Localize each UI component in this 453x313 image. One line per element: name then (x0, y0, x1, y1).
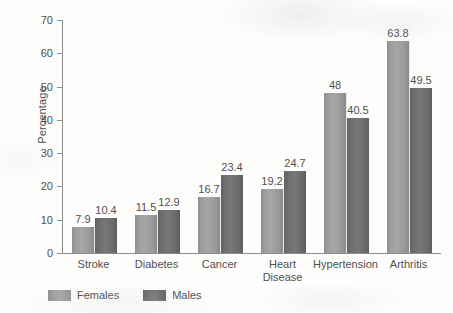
y-axis-tick-mark (57, 186, 62, 187)
y-axis-tick-label: 70 (41, 14, 53, 26)
bar-group: 19.224.7 (261, 20, 306, 253)
bar-group: 16.723.4 (198, 20, 243, 253)
bar-females[interactable]: 63.8 (387, 41, 410, 253)
bar-group: 4840.5 (324, 20, 369, 253)
bar-value-label: 12.9 (158, 196, 179, 208)
legend-item[interactable]: Males (143, 289, 201, 301)
bar-males[interactable]: 10.4 (95, 218, 117, 253)
legend-label: Males (172, 289, 201, 301)
y-axis-tick-label: 30 (41, 147, 53, 159)
bar-males[interactable]: 24.7 (284, 171, 306, 253)
bar-value-label: 48 (329, 79, 341, 91)
legend-item[interactable]: Females (48, 289, 119, 301)
legend-swatch-males (143, 290, 166, 301)
bar-males[interactable]: 12.9 (158, 210, 180, 253)
legend-label: Females (77, 289, 119, 301)
y-axis-tick-mark (57, 20, 62, 21)
bar-males[interactable]: 49.5 (410, 88, 432, 253)
bar-females[interactable]: 48 (324, 93, 347, 253)
bar-females[interactable]: 16.7 (198, 197, 221, 253)
y-axis-tick-mark (57, 87, 62, 88)
plot-area: 0102030405060707.910.411.512.916.723.419… (62, 20, 440, 253)
y-axis-tick-label: 50 (41, 81, 53, 93)
bar-value-label: 40.5 (347, 104, 368, 116)
bar-value-label: 7.9 (75, 213, 90, 225)
bar-females[interactable]: 19.2 (261, 189, 284, 253)
y-axis-tick-mark (57, 153, 62, 154)
y-axis-tick-label: 20 (41, 180, 53, 192)
bar-males[interactable]: 40.5 (347, 118, 369, 253)
x-axis-category-label: Arthritis (365, 258, 452, 271)
bar-group: 63.849.5 (387, 20, 432, 253)
bar-value-label: 49.5 (410, 74, 431, 86)
bar-value-label: 23.4 (221, 161, 242, 173)
bar-value-label: 16.7 (198, 183, 219, 195)
bar-value-label: 11.5 (136, 201, 157, 213)
y-axis-tick-label: 40 (41, 114, 53, 126)
y-axis-tick-mark (57, 53, 62, 54)
bar-value-label: 10.4 (95, 204, 116, 216)
legend-swatch-females (48, 290, 71, 301)
y-axis-tick-label: 60 (41, 47, 53, 59)
bar-value-label: 63.8 (387, 27, 408, 39)
chart-page: Percentage 0102030405060707.910.411.512.… (0, 0, 453, 313)
y-axis-tick-label: 10 (41, 214, 53, 226)
x-axis-line (62, 253, 441, 254)
y-axis-tick-mark (57, 120, 62, 121)
bar-value-label: 24.7 (284, 157, 305, 169)
chart-legend: FemalesMales (48, 289, 218, 301)
bar-females[interactable]: 11.5 (135, 215, 158, 253)
bar-group: 7.910.4 (72, 20, 117, 253)
bar-females[interactable]: 7.9 (72, 227, 95, 253)
y-axis-tick-mark (57, 220, 62, 221)
bar-males[interactable]: 23.4 (221, 175, 243, 253)
bar-group: 11.512.9 (135, 20, 180, 253)
y-axis-tick-mark (57, 253, 62, 254)
bar-value-label: 19.2 (261, 175, 282, 187)
